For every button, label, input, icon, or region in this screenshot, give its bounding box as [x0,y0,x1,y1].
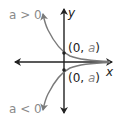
label-a-negative: a < 0 [9,103,42,115]
label-x-axis: x [106,66,113,78]
label-point-upper-suffix: ) [95,41,100,55]
label-y-axis: y [68,7,75,19]
exponential-diagram: a > 0 a < 0 y x (0, a) (0, a) [0,0,125,122]
label-point-upper-prefix: (0, [68,41,88,55]
label-point-lower: (0, a) [68,72,100,84]
label-point-upper: (0, a) [68,42,100,54]
curve-a-negative [43,63,110,111]
point-lower-intercept [62,68,66,72]
label-point-lower-prefix: (0, [68,71,88,85]
label-a-positive: a > 0 [9,9,42,21]
point-upper-intercept [62,51,66,55]
label-point-lower-suffix: ) [95,71,100,85]
